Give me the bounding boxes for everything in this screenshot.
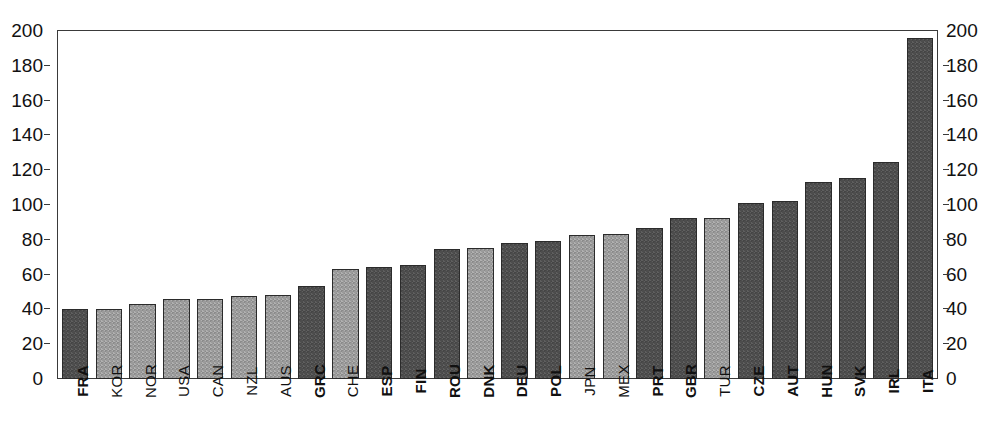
tick-mark-left-100 bbox=[44, 204, 50, 205]
x-axis-label-hun: HUN bbox=[819, 364, 834, 397]
bar-slot-deu bbox=[501, 31, 527, 379]
bar-slot-grc bbox=[298, 31, 324, 379]
bar-dnk[interactable] bbox=[467, 248, 493, 379]
x-axis-label-che: CHE bbox=[345, 365, 360, 398]
x-axis-label-fra: FRA bbox=[75, 365, 90, 397]
y-tick-label-right-0: 0 bbox=[946, 369, 957, 388]
bar-slot-cze bbox=[738, 31, 764, 379]
y-tick-label-left-120: 120 bbox=[11, 160, 43, 179]
y-tick-label-right-160: 160 bbox=[946, 91, 978, 110]
tick-mark-left-140 bbox=[44, 134, 50, 135]
bar-slot-fin bbox=[400, 31, 426, 379]
bar-jpn[interactable] bbox=[569, 235, 595, 379]
x-axis-label-can: CAN bbox=[210, 365, 225, 398]
tick-mark-left-160 bbox=[44, 100, 50, 101]
tick-mark-left-40 bbox=[44, 308, 50, 309]
y-tick-label-right-200: 200 bbox=[946, 21, 978, 40]
x-axis-label-svk: SVK bbox=[852, 365, 867, 397]
x-axis-label-mex: MEX bbox=[616, 364, 631, 397]
bar-slot-tur bbox=[704, 31, 730, 379]
bar-prt[interactable] bbox=[636, 228, 662, 379]
bar-slot-kor bbox=[96, 31, 122, 379]
bar-slot-nzl bbox=[231, 31, 257, 379]
x-axis-label-kor: KOR bbox=[109, 364, 124, 397]
x-axis-label-dnk: DNK bbox=[481, 364, 496, 397]
tick-mark-left-60 bbox=[44, 274, 50, 275]
bar-slot-esp bbox=[366, 31, 392, 379]
x-axis-label-pol: POL bbox=[548, 365, 563, 397]
y-tick-label-right-40: 40 bbox=[946, 299, 967, 318]
bar-aut[interactable] bbox=[772, 201, 798, 379]
tick-mark-right-180 bbox=[943, 65, 949, 66]
x-axis-label-nzl: NZL bbox=[244, 366, 259, 395]
x-axis-label-grc: GRC bbox=[312, 364, 327, 398]
x-axis-label-irl: IRL bbox=[886, 368, 901, 393]
y-tick-label-right-120: 120 bbox=[946, 160, 978, 179]
bar-irl[interactable] bbox=[873, 162, 899, 379]
bar-hun[interactable] bbox=[805, 182, 831, 379]
bar-tur[interactable] bbox=[704, 218, 730, 379]
bar-chart: 200180160140120100806040200 200180160140… bbox=[0, 0, 988, 440]
bar-slot-prt bbox=[636, 31, 662, 379]
bar-cze[interactable] bbox=[738, 203, 764, 379]
tick-mark-right-60 bbox=[943, 274, 949, 275]
x-axis-label-aut: AUT bbox=[785, 365, 800, 397]
y-axis-right: 200180160140120100806040200 bbox=[941, 30, 988, 379]
bar-slot-mex bbox=[603, 31, 629, 379]
bar-esp[interactable] bbox=[366, 267, 392, 379]
x-axis-label-fin: FIN bbox=[413, 368, 428, 393]
bar-slot-aus bbox=[265, 31, 291, 379]
y-tick-label-left-80: 80 bbox=[22, 230, 43, 249]
y-tick-label-right-80: 80 bbox=[946, 230, 967, 249]
bar-pol[interactable] bbox=[535, 241, 561, 379]
y-tick-label-left-180: 180 bbox=[11, 56, 43, 75]
bars-container bbox=[58, 31, 937, 379]
x-axis-label-tur: TUR bbox=[717, 365, 732, 397]
x-axis-label-nor: NOR bbox=[143, 364, 158, 398]
bar-mex[interactable] bbox=[603, 234, 629, 379]
y-tick-label-right-180: 180 bbox=[946, 56, 978, 75]
bar-svk[interactable] bbox=[839, 178, 865, 379]
y-tick-label-left-200: 200 bbox=[11, 21, 43, 40]
tick-mark-right-20 bbox=[943, 343, 949, 344]
bar-slot-irl bbox=[873, 31, 899, 379]
bar-slot-che bbox=[332, 31, 358, 379]
bar-deu[interactable] bbox=[501, 243, 527, 379]
bar-che[interactable] bbox=[332, 269, 358, 379]
y-tick-label-left-20: 20 bbox=[22, 334, 43, 353]
x-axis-label-gbr: GBR bbox=[683, 364, 698, 398]
x-axis-labels: FRAKORNORUSACANNZLAUSGRCCHEESPFINROUDNKD… bbox=[58, 381, 937, 440]
tick-mark-right-160 bbox=[943, 100, 949, 101]
bar-slot-svk bbox=[839, 31, 865, 379]
y-tick-label-right-20: 20 bbox=[946, 334, 967, 353]
x-axis-label-deu: DEU bbox=[514, 365, 529, 398]
bar-fin[interactable] bbox=[400, 265, 426, 379]
tick-mark-right-120 bbox=[943, 169, 949, 170]
y-tick-label-right-60: 60 bbox=[946, 265, 967, 284]
tick-mark-left-20 bbox=[44, 343, 50, 344]
tick-mark-left-120 bbox=[44, 169, 50, 170]
x-axis-label-usa: USA bbox=[176, 365, 191, 397]
y-tick-label-right-140: 140 bbox=[946, 125, 978, 144]
bar-slot-can bbox=[197, 31, 223, 379]
tick-mark-right-100 bbox=[943, 204, 949, 205]
cropped-chart-title bbox=[0, 0, 988, 10]
x-axis-label-esp: ESP bbox=[379, 366, 394, 397]
tick-mark-right-140 bbox=[943, 134, 949, 135]
tick-mark-left-180 bbox=[44, 65, 50, 66]
bar-slot-nor bbox=[129, 31, 155, 379]
y-tick-label-left-0: 0 bbox=[32, 369, 43, 388]
y-tick-label-left-160: 160 bbox=[11, 91, 43, 110]
y-tick-label-left-40: 40 bbox=[22, 299, 43, 318]
bar-ita[interactable] bbox=[907, 38, 933, 379]
y-tick-label-right-100: 100 bbox=[946, 195, 978, 214]
bar-slot-dnk bbox=[467, 31, 493, 379]
x-axis-label-cze: CZE bbox=[751, 366, 766, 397]
tick-mark-left-80 bbox=[44, 239, 50, 240]
x-axis-label-prt: PRT bbox=[650, 366, 665, 397]
x-axis-label-ita: ITA bbox=[920, 369, 935, 393]
bar-slot-fra bbox=[62, 31, 88, 379]
bar-rou[interactable] bbox=[434, 249, 460, 380]
bar-gbr[interactable] bbox=[670, 218, 696, 379]
bar-slot-gbr bbox=[670, 31, 696, 379]
